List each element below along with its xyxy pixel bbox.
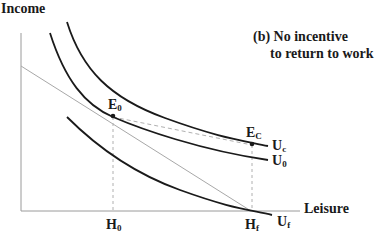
x-axis-label: Leisure [304, 201, 349, 217]
point-ec-label: EC [246, 125, 262, 141]
point-ec-marker [250, 142, 255, 147]
curve-uc [67, 22, 268, 146]
point-e0-marker [111, 114, 116, 119]
tick-h0-label: H0 [106, 217, 121, 233]
panel-title-line1: (b) No incentive [253, 28, 374, 45]
panel-title-line2: to return to work [253, 45, 374, 62]
curve-uc-label: Uc [272, 138, 286, 154]
tick-hf-label: Hf [245, 217, 259, 233]
y-axis-label: Income [1, 1, 45, 17]
curve-uf-label: Uf [277, 214, 290, 230]
point-e0-label: E0 [108, 97, 122, 113]
budget-line [21, 66, 251, 211]
indifference-curve-diagram: Income Leisure (b) No incentive to retur… [0, 0, 375, 239]
curve-uf [67, 117, 272, 215]
panel-title: (b) No incentive to return to work [253, 28, 374, 62]
curve-u0 [50, 33, 268, 160]
curve-u0-label: U0 [272, 153, 287, 169]
